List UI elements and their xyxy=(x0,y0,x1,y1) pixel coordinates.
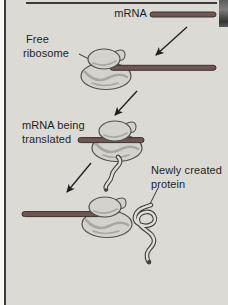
arrow-step2-icon xyxy=(115,91,137,115)
finishing-ribosome-illustration xyxy=(22,197,132,238)
label-mrna-being-translated-line2: translated xyxy=(22,133,85,147)
mrna-strand-attached xyxy=(110,65,216,70)
arrow-step1-icon xyxy=(156,27,187,55)
newly-created-protein-illustration xyxy=(135,205,155,264)
mrna-strand-free-floating xyxy=(150,12,216,17)
nascent-protein-chain xyxy=(104,157,120,192)
label-mrna-being-translated: mRNA being translated xyxy=(22,119,85,146)
label-mrna: mRNA xyxy=(100,7,147,21)
label-mrna-being-translated-line1: mRNA being xyxy=(22,119,85,133)
figure-canvas: mRNA Free ribosome mRNA being translated… xyxy=(0,0,228,305)
label-free-ribosome: Free ribosome xyxy=(23,33,69,60)
label-free-ribosome-line2: ribosome xyxy=(23,47,69,61)
label-newly-created-protein-line2: protein xyxy=(151,178,222,192)
label-newly-created-protein-line1: Newly created xyxy=(151,164,222,178)
label-free-ribosome-line1: Free xyxy=(23,33,69,47)
label-newly-created-protein: Newly created protein xyxy=(151,164,222,191)
arrow-step3-icon xyxy=(67,163,91,192)
translating-ribosome-illustration xyxy=(78,121,144,192)
free-ribosome-illustration xyxy=(81,49,216,90)
